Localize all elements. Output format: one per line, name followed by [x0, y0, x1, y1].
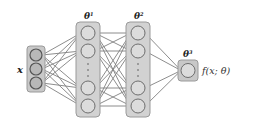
hidden-node — [81, 26, 95, 40]
hidden-node — [131, 44, 145, 58]
output-function-label: f(x; θ) — [201, 65, 231, 76]
ellipsis-dot — [87, 69, 89, 71]
ellipsis-dot — [87, 75, 89, 77]
hidden-node — [131, 81, 145, 95]
output-node — [181, 64, 195, 78]
ellipsis-dot — [137, 69, 139, 71]
input-node — [30, 77, 42, 89]
input-node — [30, 63, 42, 75]
ellipsis-dot — [137, 75, 139, 77]
layer-1-label: θ1 — [84, 11, 94, 21]
hidden-node — [81, 44, 95, 58]
neural-network-diagram: x θ1 θ2 θ3 f(x; θ) — [0, 0, 260, 127]
layer-3-label: θ3 — [183, 49, 193, 59]
hidden-node — [131, 99, 145, 113]
input-node — [30, 49, 42, 61]
input-label: x — [16, 64, 24, 75]
hidden-node — [81, 99, 95, 113]
ellipsis-dot — [137, 63, 139, 65]
hidden-layer-2 — [126, 22, 150, 117]
hidden-node — [81, 81, 95, 95]
output-layer — [178, 60, 198, 81]
layer-2-label: θ2 — [134, 11, 144, 21]
ellipsis-dot — [87, 63, 89, 65]
hidden-layer-1 — [76, 22, 100, 117]
input-layer — [27, 46, 45, 92]
hidden-node — [131, 26, 145, 40]
connection-edges — [42, 33, 181, 106]
